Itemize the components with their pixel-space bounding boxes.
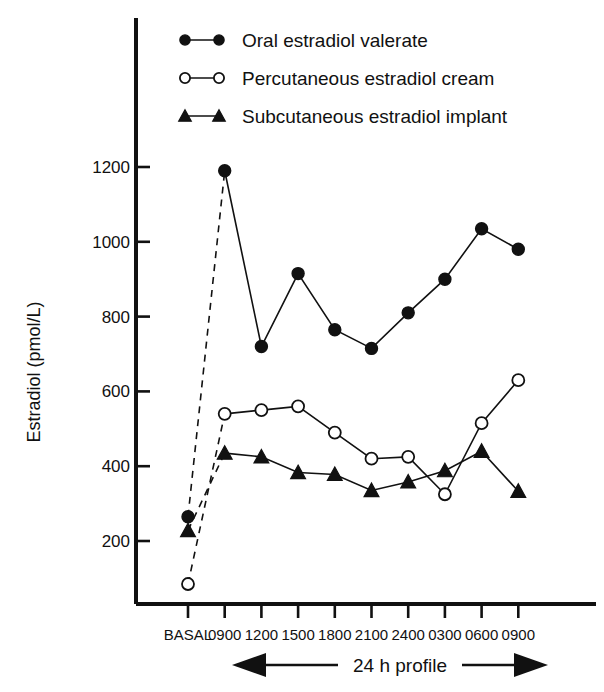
data-series-layer bbox=[181, 165, 526, 590]
data-point-marker bbox=[401, 475, 416, 488]
data-point-marker bbox=[292, 268, 304, 280]
legend-marker-icon bbox=[214, 35, 224, 45]
series-filled-triangle bbox=[181, 444, 526, 537]
series-line bbox=[225, 171, 519, 349]
x-axis-ticks: BASAL09001200150018002100240003000600090… bbox=[164, 604, 535, 643]
legend-label: Oral estradiol valerate bbox=[242, 30, 428, 51]
left-arrow-icon bbox=[232, 653, 266, 677]
y-axis-ticks: 20040060080010001200 bbox=[92, 158, 150, 551]
series-basal-connector bbox=[188, 414, 225, 584]
data-point-marker bbox=[181, 523, 196, 536]
data-point-marker bbox=[439, 488, 451, 500]
data-point-marker bbox=[438, 463, 453, 476]
data-point-marker bbox=[292, 400, 304, 412]
figure-root: 20040060080010001200 BASAL09001200150018… bbox=[0, 0, 604, 692]
x-tick-label: BASAL bbox=[164, 626, 212, 643]
y-tick-label: 400 bbox=[102, 457, 130, 476]
data-point-marker bbox=[255, 404, 267, 416]
data-point-marker bbox=[512, 374, 524, 386]
data-point-marker bbox=[439, 273, 451, 285]
x-tick-label: 0900 bbox=[502, 626, 535, 643]
data-point-marker bbox=[329, 324, 341, 336]
data-point-marker bbox=[476, 223, 488, 235]
x-tick-label: 1200 bbox=[245, 626, 278, 643]
x-tick-label: 0300 bbox=[428, 626, 461, 643]
data-point-marker bbox=[182, 578, 194, 590]
legend-item-1: Percutaneous estradiol cream bbox=[180, 68, 495, 89]
data-point-marker bbox=[329, 427, 341, 439]
right-arrow-icon bbox=[514, 653, 548, 677]
y-tick-label: 1200 bbox=[92, 158, 130, 177]
y-tick-label: 800 bbox=[102, 308, 130, 327]
y-tick-label: 200 bbox=[102, 532, 130, 551]
data-point-marker bbox=[512, 243, 524, 255]
data-point-marker bbox=[402, 451, 414, 463]
data-point-marker bbox=[182, 511, 194, 523]
series-line bbox=[225, 380, 519, 494]
x-tick-label: 2100 bbox=[355, 626, 388, 643]
estradiol-line-chart: 20040060080010001200 BASAL09001200150018… bbox=[0, 0, 604, 692]
x-tick-label: 0600 bbox=[465, 626, 498, 643]
legend-item-0: Oral estradiol valerate bbox=[180, 30, 428, 51]
legend-marker-icon bbox=[214, 73, 224, 83]
data-point-marker bbox=[402, 307, 414, 319]
series-basal-connector bbox=[188, 171, 225, 517]
data-point-marker bbox=[219, 408, 231, 420]
data-point-marker bbox=[219, 165, 231, 177]
x-tick-label: 1500 bbox=[281, 626, 314, 643]
x-tick-label: 1800 bbox=[318, 626, 351, 643]
chart-legend: Oral estradiol valeratePercutaneous estr… bbox=[179, 30, 508, 127]
y-tick-label: 1000 bbox=[92, 233, 130, 252]
data-point-marker bbox=[366, 342, 378, 354]
profile-span-label: 24 h profile bbox=[353, 655, 447, 676]
legend-label: Subcutaneous estradiol implant bbox=[242, 106, 508, 127]
y-tick-label: 600 bbox=[102, 382, 130, 401]
data-point-marker bbox=[217, 446, 232, 459]
legend-item-2: Subcutaneous estradiol implant bbox=[179, 106, 508, 127]
data-point-marker bbox=[476, 417, 488, 429]
legend-label: Percutaneous estradiol cream bbox=[242, 68, 494, 89]
y-axis-title: Estradiol (pmol/L) bbox=[24, 301, 44, 442]
data-point-marker bbox=[366, 453, 378, 465]
x-tick-label: 2400 bbox=[392, 626, 425, 643]
legend-marker-icon bbox=[180, 35, 190, 45]
data-point-marker bbox=[474, 444, 489, 457]
data-point-marker bbox=[291, 465, 306, 478]
profile-span-annotation: 24 h profile bbox=[232, 653, 548, 677]
legend-marker-icon bbox=[180, 73, 190, 83]
x-tick-label: 0900 bbox=[208, 626, 241, 643]
data-point-marker bbox=[255, 341, 267, 353]
series-filled-circle bbox=[182, 165, 524, 523]
